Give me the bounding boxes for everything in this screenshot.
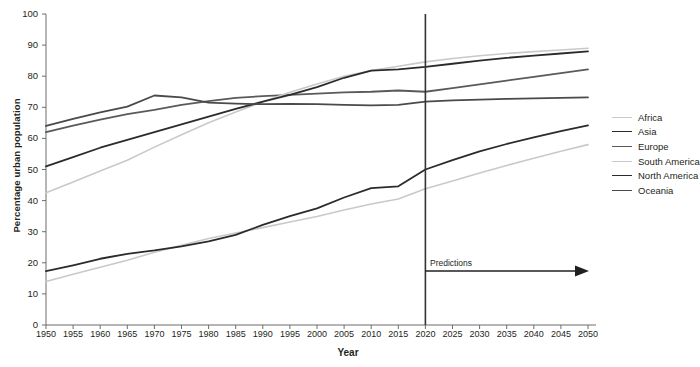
legend-item-label: North America (638, 170, 698, 181)
legend-item-oceania[interactable]: Oceania (612, 183, 700, 198)
legend-item-north-america[interactable]: North America (612, 168, 700, 183)
legend-item-europe[interactable]: Europe (612, 139, 700, 154)
legend-item-africa[interactable]: Africa (612, 110, 700, 125)
legend-line-swatch (612, 161, 632, 162)
chart-axes (42, 14, 596, 329)
legend-item-label: Asia (638, 126, 656, 137)
legend-line-swatch (612, 175, 632, 176)
legend-item-label: Europe (638, 141, 669, 152)
chart-legend: AfricaAsiaEuropeSouth AmericaNorth Ameri… (612, 110, 700, 198)
legend-line-swatch (612, 146, 632, 147)
chart-series-lines (46, 48, 588, 281)
predictions-label: Predictions (430, 258, 472, 268)
legend-item-label: Oceania (638, 185, 673, 196)
legend-line-swatch (612, 190, 632, 191)
legend-line-swatch (612, 117, 632, 118)
legend-item-south-america[interactable]: South America (612, 154, 700, 169)
legend-item-label: Africa (638, 112, 662, 123)
legend-line-swatch (612, 131, 632, 132)
legend-item-label: South America (638, 156, 700, 167)
legend-item-asia[interactable]: Asia (612, 125, 700, 140)
